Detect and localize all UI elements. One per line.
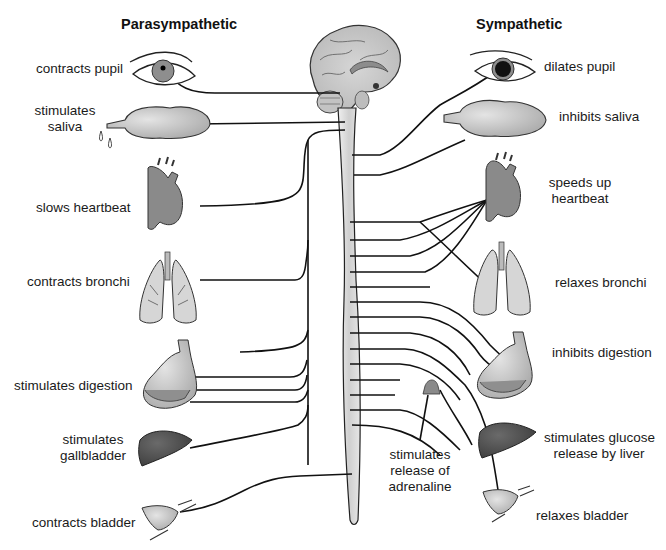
salivary-gland-icon-sympathetic bbox=[444, 100, 546, 136]
label-line: speeds up bbox=[540, 175, 620, 191]
label-speeds-up-heartbeat: speeds up heartbeat bbox=[540, 175, 620, 207]
heading-sympathetic: Sympathetic bbox=[476, 16, 562, 32]
label-line: stimulates bbox=[58, 432, 128, 448]
brain-icon bbox=[310, 25, 400, 113]
label-stimulates-saliva: stimulates saliva bbox=[30, 103, 100, 135]
heading-parasympathetic: Parasympathetic bbox=[121, 16, 237, 32]
adrenal-gland-icon bbox=[423, 380, 440, 394]
eye-icon-sympathetic bbox=[470, 51, 535, 81]
lungs-icon-sympathetic bbox=[474, 242, 530, 315]
autonomic-nervous-system-diagram: Parasympathetic Sympathetic contracts pu… bbox=[0, 0, 666, 550]
label-contracts-pupil: contracts pupil bbox=[36, 61, 123, 77]
bladder-icon-sympathetic bbox=[483, 486, 534, 522]
label-inhibits-digestion: inhibits digestion bbox=[552, 345, 652, 361]
label-stimulates-glucose-release: stimulates glucose release by liver bbox=[544, 430, 654, 462]
label-line: stimulates bbox=[380, 447, 460, 463]
stomach-icon-sympathetic bbox=[477, 332, 532, 398]
label-contracts-bladder: contracts bladder bbox=[32, 515, 136, 531]
label-stimulates-digestion: stimulates digestion bbox=[14, 378, 133, 394]
label-line: release by liver bbox=[544, 446, 654, 462]
label-line: stimulates bbox=[30, 103, 100, 119]
label-contracts-bronchi: contracts bronchi bbox=[27, 274, 130, 290]
label-line: stimulates glucose bbox=[544, 430, 654, 446]
label-relaxes-bronchi: relaxes bronchi bbox=[555, 275, 647, 291]
salivary-gland-icon-parasympathetic bbox=[100, 107, 211, 148]
bladder-icon-parasympathetic bbox=[142, 500, 196, 540]
heart-icon-parasympathetic bbox=[148, 157, 183, 229]
label-adrenaline: stimulates release of adrenaline bbox=[380, 447, 460, 495]
label-dilates-pupil: dilates pupil bbox=[544, 59, 615, 75]
label-line: saliva bbox=[30, 119, 100, 135]
liver-icon-parasympathetic bbox=[139, 431, 192, 466]
lungs-icon-parasympathetic bbox=[140, 252, 196, 323]
label-line: heartbeat bbox=[540, 191, 620, 207]
stomach-icon-parasympathetic bbox=[143, 340, 196, 408]
label-inhibits-saliva: inhibits saliva bbox=[559, 109, 639, 125]
label-slows-heartbeat: slows heartbeat bbox=[36, 200, 131, 216]
label-line: release of bbox=[380, 463, 460, 479]
label-stimulates-gallbladder: stimulates gallbladder bbox=[58, 432, 128, 464]
label-line: gallbladder bbox=[58, 448, 128, 464]
heart-icon-sympathetic bbox=[486, 152, 521, 221]
label-relaxes-bladder: relaxes bladder bbox=[536, 508, 628, 524]
liver-icon-sympathetic bbox=[479, 423, 536, 458]
eye-icon-parasympathetic bbox=[130, 52, 195, 85]
label-line: adrenaline bbox=[380, 479, 460, 495]
